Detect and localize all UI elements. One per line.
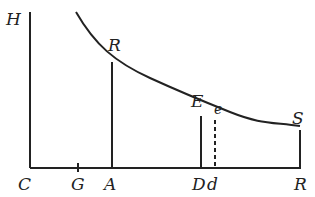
label-C: C (18, 174, 31, 194)
label-D: D (191, 174, 206, 194)
label-E: E (190, 91, 204, 111)
label-B: R (107, 35, 121, 55)
label-G: G (71, 174, 85, 194)
label-S: S (292, 108, 304, 128)
label-e: e (214, 101, 222, 117)
geometric-diagram: H R E e S C G A D d R (0, 0, 315, 197)
label-d: d (207, 174, 218, 194)
label-H: H (5, 9, 22, 29)
label-A: A (102, 174, 116, 194)
curve-BES (76, 12, 300, 126)
label-R: R (293, 174, 307, 194)
